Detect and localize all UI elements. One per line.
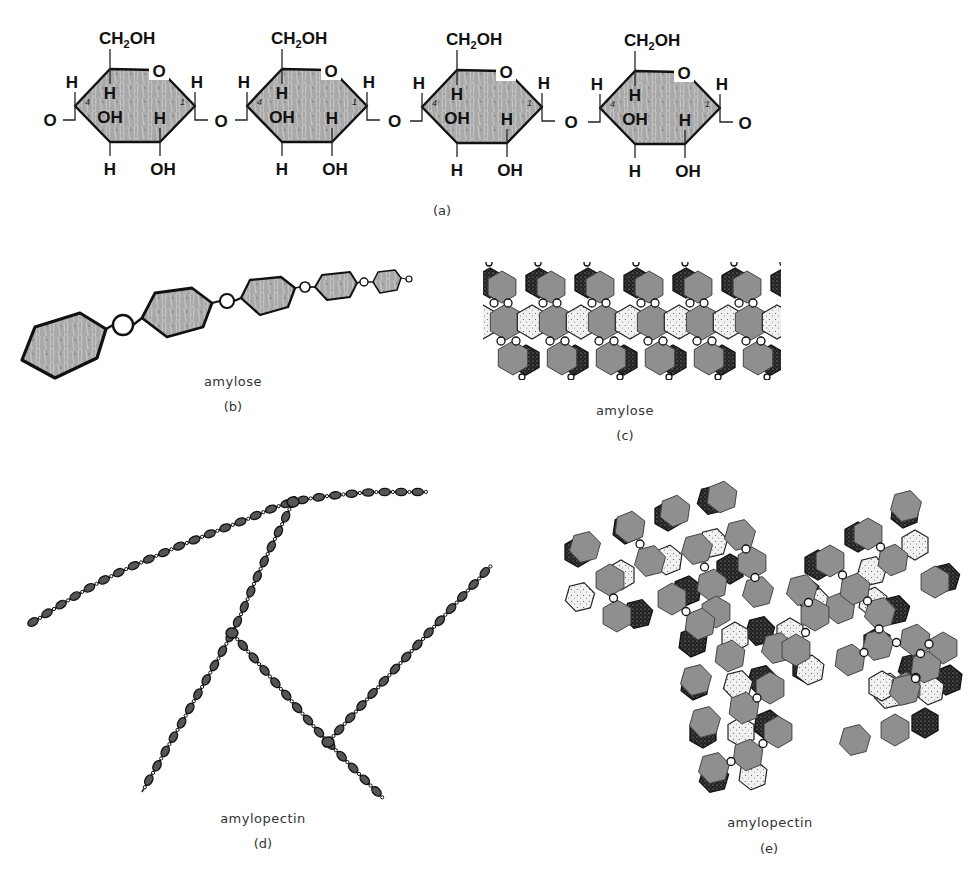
svg-text:OH: OH — [497, 161, 523, 180]
svg-text:OH: OH — [150, 160, 176, 179]
branch-point-bead — [322, 737, 334, 747]
terminal-oxygen-right: O — [738, 114, 751, 133]
svg-text:H: H — [716, 75, 728, 94]
glucose-bead — [346, 490, 358, 498]
svg-text:OH: OH — [97, 108, 123, 127]
glucose-bead — [26, 616, 39, 628]
glucose-bead — [234, 516, 247, 527]
svg-text:H: H — [104, 84, 116, 103]
glycosidic-oxygen-circle — [113, 315, 133, 335]
svg-text:H: H — [629, 86, 641, 105]
glycosidic-oxygen-circle — [220, 294, 234, 308]
glucose-bead — [157, 547, 170, 558]
glucose-bead — [264, 504, 277, 515]
ring-oxygen: O — [152, 62, 165, 81]
svg-text:H: H — [591, 75, 603, 94]
glucose-bead — [259, 555, 270, 568]
glucose-ring-4: OCH2OHHHHOHHHOH41 — [588, 31, 733, 181]
panel-b-caption: amylose — [204, 374, 262, 389]
glucose-bead — [192, 687, 204, 700]
svg-text:H: H — [679, 111, 691, 130]
glucose-ring-3: OCH2OHHHHOHHHOH41 — [410, 30, 555, 180]
glucose-bead — [173, 541, 186, 552]
glycosidic-link — [742, 545, 750, 553]
glucose-bead — [379, 488, 390, 495]
helix-side-unit — [762, 305, 791, 339]
panel-d-label: (d) — [254, 836, 272, 851]
glycosidic-link — [925, 640, 933, 648]
glycosidic-link — [864, 597, 872, 605]
svg-text:H: H — [501, 110, 513, 129]
helix-front-unit — [792, 341, 821, 375]
glucose-bead — [143, 773, 155, 786]
glucose-bead — [239, 600, 250, 613]
glycosidic-link — [701, 563, 709, 571]
helix-front-unit — [784, 304, 815, 340]
glucose-bead — [362, 489, 374, 497]
helix-back-unit — [856, 345, 882, 375]
amylose-glucose-unit — [142, 288, 212, 337]
svg-text:4: 4 — [85, 97, 90, 107]
glucose-bead — [184, 702, 196, 715]
glycosidic-oxygen-circle — [300, 282, 310, 292]
ring-hexagon — [600, 71, 720, 144]
glucose-bead — [280, 510, 291, 523]
ring-oxygen: O — [677, 64, 690, 83]
glycosidic-link — [875, 625, 883, 633]
glucose-bead — [83, 582, 96, 594]
glucose-bead — [54, 599, 67, 611]
glycosidic-oxygen: O — [388, 112, 401, 131]
svg-text:H: H — [326, 109, 338, 128]
panel-b-label: (b) — [224, 399, 242, 414]
helix-link — [784, 299, 792, 307]
svg-text:H: H — [538, 74, 550, 93]
glycosidic-link — [917, 650, 925, 658]
helix-link — [490, 299, 498, 307]
helix-link — [588, 299, 596, 307]
svg-text:1: 1 — [705, 99, 710, 109]
glycosidic-link — [759, 740, 767, 748]
glucose-bead — [252, 570, 263, 583]
svg-text:OH: OH — [622, 110, 648, 129]
svg-text:1: 1 — [352, 97, 357, 107]
glucose-bead — [200, 673, 212, 686]
terminal-oxygen-left: O — [43, 111, 56, 130]
glucose-bead — [209, 659, 221, 672]
glucose-bead — [188, 534, 201, 545]
glycosidic-link — [893, 639, 901, 647]
panel-e-label: (e) — [760, 841, 778, 856]
amylopectin-glucose-unit — [733, 739, 763, 771]
panel-c-caption: amylose — [596, 403, 654, 418]
glucose-bead — [273, 525, 284, 538]
glucose-bead — [151, 759, 163, 772]
branch-1 — [142, 495, 299, 792]
ring-oxygen: O — [324, 62, 337, 81]
glycosidic-link — [682, 608, 690, 616]
helix-link — [686, 299, 694, 307]
svg-text:H: H — [363, 73, 375, 92]
amylose-glucose-unit — [373, 270, 401, 293]
panel-c-label: (c) — [616, 428, 633, 443]
svg-text:4: 4 — [432, 98, 437, 108]
glycosidic-link — [839, 571, 847, 579]
ch2oh-group: CH2OH — [271, 29, 327, 50]
svg-text:H: H — [451, 85, 463, 104]
helix-side-unit — [811, 305, 840, 339]
glucose-bead — [176, 716, 188, 729]
svg-text:H: H — [276, 84, 288, 103]
starch-structure-figure: OCH2OHHHHOHHHOH41OOOCH2OHHHHOHHHOH41OOCH… — [0, 0, 971, 873]
svg-text:H: H — [238, 73, 250, 92]
branch-2 — [226, 626, 384, 798]
glucose-bead — [217, 644, 229, 657]
amylopectin-glucose-unit — [565, 583, 594, 612]
branch-point-bead — [287, 497, 299, 507]
glycosidic-link — [753, 694, 761, 702]
svg-text:H: H — [413, 74, 425, 93]
glucose-bead — [266, 540, 277, 553]
glucose-bead — [203, 528, 216, 539]
amylose-glucose-unit — [241, 277, 295, 315]
svg-text:H: H — [276, 160, 288, 179]
branch-3 — [322, 565, 492, 749]
glucose-bead — [97, 574, 110, 586]
main-chain — [26, 488, 427, 628]
